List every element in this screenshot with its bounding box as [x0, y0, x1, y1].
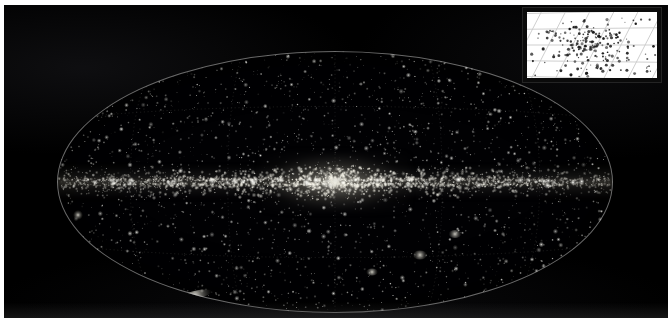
inset-scatter: [527, 12, 657, 78]
starfield-scatter: [57, 51, 613, 313]
screenshot-root: [0, 0, 668, 326]
aitoff-sky-ellipse: [57, 51, 613, 313]
caption-strip: [0, 318, 668, 326]
inset-panel[interactable]: [523, 8, 661, 82]
inset-plot-area: [527, 12, 657, 78]
